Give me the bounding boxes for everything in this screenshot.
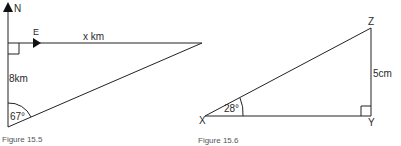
right-angle-marker xyxy=(361,106,371,116)
right-side-label: 5cm xyxy=(373,69,392,79)
angle-arc xyxy=(240,98,243,116)
east-label: E xyxy=(33,28,39,37)
top-side-label: x km xyxy=(83,32,104,42)
north-label: N xyxy=(14,4,21,14)
north-arrow-icon xyxy=(3,2,13,12)
east-arrow-icon xyxy=(33,38,41,48)
angle-label: 67° xyxy=(10,112,25,122)
right-angle-marker xyxy=(8,43,19,54)
vertex-y-label: Y xyxy=(368,118,375,128)
left-side-label: 8km xyxy=(9,74,28,84)
vertex-x-label: X xyxy=(199,116,206,126)
vertex-z-label: Z xyxy=(368,17,374,27)
hypotenuse-line xyxy=(8,43,202,127)
angle-label: 28° xyxy=(224,104,239,114)
figure-caption: Figure 15.6 xyxy=(198,137,238,145)
figure-caption: Figure 15.5 xyxy=(2,136,42,144)
